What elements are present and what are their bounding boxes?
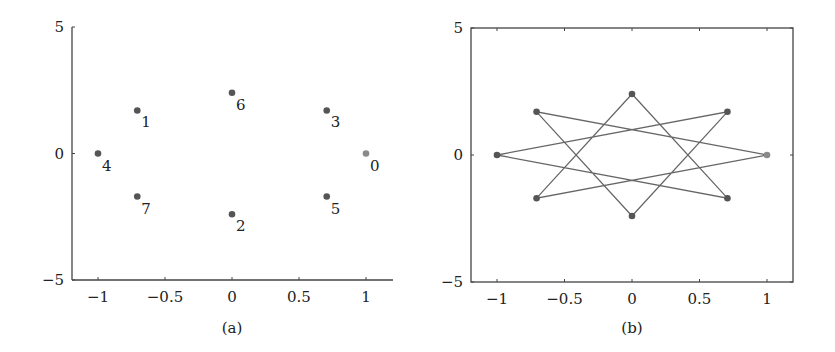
point-label: 3 (331, 113, 341, 131)
data-point (724, 109, 731, 116)
y-tick-label: 0 (453, 146, 463, 164)
point-label: 7 (141, 200, 151, 218)
data-point (95, 150, 102, 157)
data-point (229, 89, 236, 96)
point-label: 2 (236, 217, 246, 235)
x-tick-label: 0 (227, 288, 237, 306)
x-tick-label: −1 (486, 290, 508, 308)
y-tick-label: −5 (42, 271, 64, 289)
y-tick-label: 5 (453, 19, 463, 37)
data-point (363, 150, 370, 157)
figure: −1−0.500.51−50501234567(a) −1−0.500.51−5… (0, 0, 835, 352)
data-point (533, 195, 540, 202)
x-tick-label: −0.5 (147, 288, 183, 306)
data-point (533, 109, 540, 116)
x-tick-label: 0.5 (287, 288, 311, 306)
data-point (323, 193, 330, 200)
data-point (724, 195, 731, 202)
point-label: 6 (236, 96, 246, 114)
plot-frame (471, 28, 793, 282)
data-point (494, 152, 501, 159)
panel-b-star-line: −1−0.500.51−505(b) (441, 19, 793, 337)
panel-caption: (b) (621, 319, 642, 337)
x-tick-label: 0 (627, 290, 637, 308)
panel-a-scatter: −1−0.500.51−50501234567(a) (42, 18, 393, 337)
data-point (134, 107, 141, 114)
y-tick-label: −5 (441, 273, 463, 291)
point-label: 0 (370, 157, 380, 175)
data-point (629, 213, 636, 220)
data-point (764, 152, 771, 159)
data-point (629, 91, 636, 98)
x-tick-label: −1 (87, 288, 109, 306)
data-point (134, 193, 141, 200)
y-tick-label: 5 (54, 18, 64, 36)
point-label: 5 (331, 200, 341, 218)
data-point (229, 211, 236, 218)
panel-caption: (a) (222, 319, 243, 337)
y-tick-label: 0 (54, 145, 64, 163)
x-tick-label: 1 (361, 288, 371, 306)
data-point (323, 107, 330, 114)
x-tick-label: 1 (762, 290, 772, 308)
point-label: 1 (141, 113, 151, 131)
x-tick-label: −0.5 (546, 290, 582, 308)
x-tick-label: 0.5 (688, 290, 712, 308)
point-label: 4 (102, 157, 112, 175)
